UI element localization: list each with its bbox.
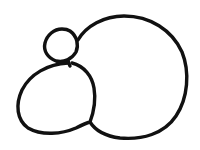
line-drawing-figure	[0, 0, 200, 150]
drawing-canvas	[0, 0, 200, 150]
neck-connector-stroke	[68, 60, 70, 66]
